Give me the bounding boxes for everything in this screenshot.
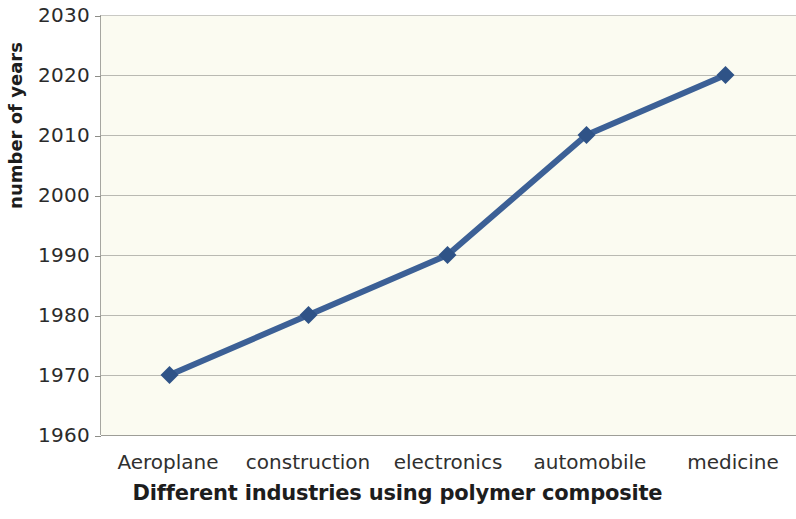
y-axis-tick-label: 1960	[0, 425, 90, 445]
y-axis-tick-mark	[95, 436, 101, 437]
x-axis-tick-label: automobile	[534, 452, 647, 472]
plot-area	[100, 15, 796, 435]
gridline-1970	[101, 375, 796, 376]
gridline-2020	[101, 75, 796, 76]
y-axis-tick-label: 2010	[0, 125, 90, 145]
x-axis-title: Different industries using polymer compo…	[0, 481, 795, 505]
y-axis-tick-label: 1970	[0, 365, 90, 385]
x-axis-tick-label: Aeroplane	[117, 452, 218, 472]
y-axis-tick-mark	[95, 316, 101, 317]
y-axis-tick-mark	[95, 256, 101, 257]
y-axis-tick-label: 2000	[0, 185, 90, 205]
y-axis-tick-label: 2020	[0, 65, 90, 85]
y-axis-tick-label: 1990	[0, 245, 90, 265]
gridline-2010	[101, 135, 796, 136]
x-axis-tick-label: construction	[246, 452, 370, 472]
gridline-2030	[101, 15, 796, 16]
y-axis-tick-label: 2030	[0, 5, 90, 25]
y-axis-tick-mark	[95, 136, 101, 137]
x-axis-tick-label: medicine	[687, 452, 779, 472]
gridline-1990	[101, 255, 796, 256]
gridline-2000	[101, 195, 796, 196]
y-axis-tick-label: 1980	[0, 305, 90, 325]
y-axis-tick-mark	[95, 376, 101, 377]
y-axis-tick-mark	[95, 76, 101, 77]
y-axis-tick-mark	[95, 196, 101, 197]
gridline-1980	[101, 315, 796, 316]
x-axis-tick-label: electronics	[394, 452, 503, 472]
y-axis-tick-mark	[95, 16, 101, 17]
x-axis-line	[101, 435, 796, 436]
